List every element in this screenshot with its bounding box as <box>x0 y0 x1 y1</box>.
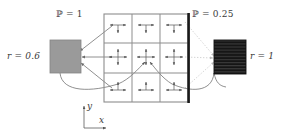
reflection-right-label: r = 1 <box>250 51 274 61</box>
axis-y-label: y <box>87 101 92 111</box>
cell-arrows-r0c1 <box>138 25 154 33</box>
probability-left-label: ℙ = 1 <box>56 9 83 19</box>
black-striped-block <box>214 40 246 74</box>
cell-arrow-clusters <box>109 25 183 90</box>
cell-arrows-r0c2 <box>166 25 182 33</box>
reflection-left-label: r = 0.6 <box>7 51 40 61</box>
cell-arrows-r2c2 <box>166 82 182 90</box>
cell-arrows-r1c0 <box>109 49 127 65</box>
cell-arrows-r2c0 <box>110 82 126 90</box>
gray-absorber-block <box>50 40 81 73</box>
cell-arrows-r0c0 <box>110 25 126 33</box>
diagram-svg <box>0 0 285 138</box>
left-connector-top <box>80 26 112 51</box>
probability-right-label: ℙ = 0.25 <box>192 9 234 19</box>
cell-arrows-r2c1 <box>138 82 154 90</box>
cell-arrows-r1c1 <box>137 49 155 65</box>
curve-right-tail <box>214 73 226 87</box>
axis-x-label: x <box>99 115 104 125</box>
cell-arrows-r1c2 <box>165 49 183 65</box>
left-connector-group <box>80 26 112 88</box>
left-connector-bottom <box>81 63 112 88</box>
figure-canvas: ℙ = 1 ℙ = 0.25 r = 0.6 r = 1 y x <box>0 0 285 138</box>
